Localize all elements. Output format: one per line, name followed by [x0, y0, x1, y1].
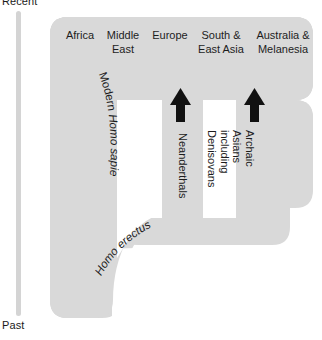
figure-canvas: Recent Past: [0, 0, 322, 340]
region-header-africa: Africa: [56, 29, 104, 43]
region-header-middle-east: Middle East: [99, 29, 147, 56]
region-header-australia-melanesia: Australia & Melanesia: [250, 29, 316, 56]
elbow-inner-cut: [160, 248, 322, 340]
region-header-europe: Europe: [146, 29, 194, 43]
label-neanderthals: Neanderthals: [177, 133, 190, 198]
elbow-inner-curve: [112, 248, 165, 340]
region-header-south-east-asia: South & East Asia: [192, 29, 250, 56]
label-archaic-asians: Archaic Asians including Denisovans: [206, 130, 256, 196]
